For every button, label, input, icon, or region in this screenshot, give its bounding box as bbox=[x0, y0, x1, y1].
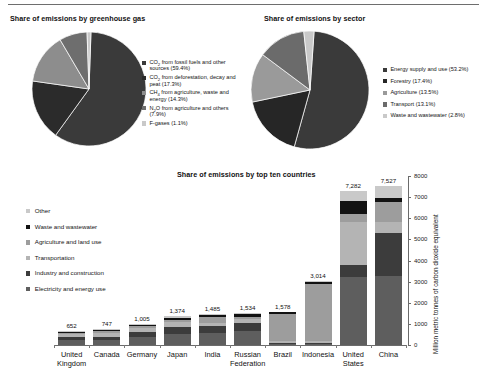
bar-stack bbox=[305, 281, 332, 345]
pie-gas-legend-label: F-gases (1.1%) bbox=[149, 120, 245, 126]
bar-segment bbox=[305, 284, 332, 341]
x-tick bbox=[160, 345, 161, 348]
bar-stack bbox=[269, 312, 296, 345]
pie-gas-chart bbox=[31, 31, 147, 149]
bar-column[interactable]: 3,014 bbox=[305, 176, 332, 345]
legend-swatch-icon bbox=[142, 76, 146, 80]
y-tick-label: 5000 bbox=[414, 236, 427, 242]
bar-segment bbox=[375, 233, 402, 276]
y-tick-label: 8000 bbox=[414, 173, 427, 179]
pie-sector-legend-label: Agriculture (13.5%) bbox=[390, 89, 438, 95]
bar-column[interactable]: 1,578 bbox=[269, 176, 296, 345]
bar-segment bbox=[164, 334, 191, 345]
y-axis-title: Million metric tonnes of carbon dioxide … bbox=[432, 214, 439, 354]
bar-value-label: 1,534 bbox=[240, 304, 255, 311]
bar-segment bbox=[234, 323, 261, 332]
bar-value-label: 3,014 bbox=[310, 272, 325, 279]
y-tick-label: 0 bbox=[414, 342, 417, 348]
category-label: Canada bbox=[89, 350, 124, 359]
y-tick bbox=[408, 282, 411, 283]
bar-stack bbox=[375, 186, 402, 345]
x-tick bbox=[54, 345, 55, 348]
pie-gas-legend-label: N2O from agriculture and others (7.9%) bbox=[149, 105, 245, 118]
legend-swatch-icon bbox=[142, 121, 146, 125]
bar-value-label: 652 bbox=[66, 322, 76, 329]
category-label: Russian Federation bbox=[230, 350, 265, 369]
pie-gas-legend-item[interactable]: CO2 from deforestation, decay and peat (… bbox=[142, 74, 246, 87]
bar-segment bbox=[375, 202, 402, 222]
y-tick-label: 3000 bbox=[414, 278, 427, 284]
pie-gas-legend: CO2 from fossil fuels and other sources … bbox=[142, 59, 246, 129]
bar-segment bbox=[269, 314, 296, 341]
bar-column[interactable]: 1,374 bbox=[164, 176, 191, 345]
y-tick bbox=[408, 261, 411, 262]
bar-stack bbox=[340, 191, 367, 345]
y-tick-label: 4000 bbox=[414, 257, 427, 263]
pie-gas-legend-item[interactable]: CO2 from fossil fuels and other sources … bbox=[142, 59, 246, 72]
y-tick bbox=[408, 303, 411, 304]
bar-column[interactable]: 1,005 bbox=[129, 176, 156, 345]
legend-swatch-icon bbox=[26, 256, 30, 260]
bar-segment bbox=[340, 191, 367, 201]
legend-swatch-icon bbox=[26, 287, 30, 291]
y-tick-label: 1000 bbox=[414, 320, 427, 326]
pie-sector-legend-item[interactable]: Forestry (17.4%) bbox=[383, 78, 487, 84]
x-tick bbox=[406, 345, 407, 348]
x-tick bbox=[124, 345, 125, 348]
category-label: United Kingdom bbox=[54, 350, 89, 369]
category-label: Japan bbox=[160, 350, 195, 359]
x-tick bbox=[195, 345, 196, 348]
pie-sector-legend-item[interactable]: Agriculture (13.5%) bbox=[383, 89, 487, 95]
bar-column[interactable]: 1,485 bbox=[199, 176, 226, 345]
y-tick bbox=[408, 197, 411, 198]
pie-gas-legend-item[interactable]: F-gases (1.1%) bbox=[142, 120, 246, 126]
pie-sector-legend-item[interactable]: Waste and wastewater (2.8%) bbox=[383, 112, 487, 118]
bar-value-label: 1,005 bbox=[134, 315, 149, 322]
bar-segment bbox=[129, 337, 156, 345]
bar-stack bbox=[199, 314, 226, 345]
bar-segment bbox=[234, 331, 261, 345]
bar-column[interactable]: 1,534 bbox=[234, 176, 261, 345]
bar-stack bbox=[58, 331, 85, 345]
bar-stack bbox=[164, 316, 191, 345]
y-tick-label: 6000 bbox=[414, 215, 427, 221]
bar-value-label: 1,578 bbox=[275, 303, 290, 310]
bar-column[interactable]: 747 bbox=[93, 176, 120, 345]
legend-swatch-icon bbox=[142, 106, 146, 110]
legend-swatch-icon bbox=[26, 225, 30, 229]
bar-chart-area: 6527471,0051,3741,4851,5341,5783,0147,28… bbox=[36, 176, 441, 381]
bar-column[interactable]: 652 bbox=[58, 176, 85, 345]
bar-column[interactable]: 7,527 bbox=[375, 176, 402, 345]
bar-segment bbox=[164, 327, 191, 334]
category-label: Germany bbox=[124, 350, 159, 359]
bar-segment bbox=[340, 222, 367, 264]
y-tick-label: 7000 bbox=[414, 194, 427, 200]
x-tick bbox=[89, 345, 90, 348]
pie-sector-title: Share of emissions by sector bbox=[264, 14, 365, 23]
pie-sector-svg bbox=[250, 30, 370, 152]
bar-value-label: 7,527 bbox=[381, 177, 396, 184]
pie-gas-svg bbox=[31, 31, 147, 149]
pie-gas-legend-item[interactable]: N2O from agriculture and others (7.9%) bbox=[142, 105, 246, 118]
pie-sector-legend-label: Transport (13.1%) bbox=[390, 101, 435, 107]
x-tick bbox=[265, 345, 266, 348]
pie-gas-legend-item[interactable]: CH4 from agriculture, waste and energy (… bbox=[142, 89, 246, 102]
bar-value-label: 747 bbox=[102, 320, 112, 327]
x-tick bbox=[336, 345, 337, 348]
y-tick bbox=[408, 176, 411, 177]
legend-swatch-icon bbox=[26, 209, 30, 213]
pie-sector-legend-item[interactable]: Energy supply and use (53.2%) bbox=[383, 66, 487, 72]
legend-swatch-icon bbox=[383, 102, 387, 106]
pie-gas-legend-label: CH4 from agriculture, waste and energy (… bbox=[149, 89, 245, 102]
bar-column[interactable]: 7,282 bbox=[340, 176, 367, 345]
bar-segment bbox=[340, 265, 367, 278]
y-tick bbox=[408, 324, 411, 325]
bar-segment bbox=[340, 277, 367, 345]
pie-sector-legend-item[interactable]: Transport (13.1%) bbox=[383, 101, 487, 107]
legend-swatch-icon bbox=[142, 61, 146, 65]
legend-swatch-icon bbox=[142, 91, 146, 95]
y-tick bbox=[408, 239, 411, 240]
bar-plot: 6527471,0051,3741,4851,5341,5783,0147,28… bbox=[54, 176, 406, 345]
category-label: Indonesia bbox=[300, 350, 335, 359]
pie-sector-legend-label: Waste and wastewater (2.8%) bbox=[390, 112, 464, 118]
